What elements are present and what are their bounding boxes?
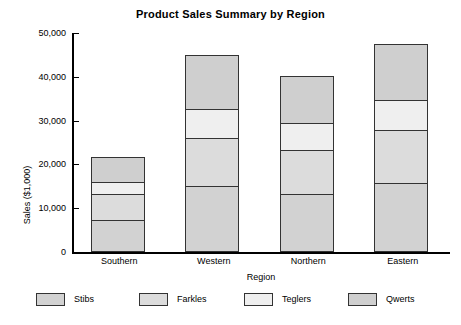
legend-swatch-farkles xyxy=(139,293,168,306)
y-tick-label: 50,000 xyxy=(0,28,66,38)
bar-segment[interactable] xyxy=(185,138,239,187)
x-tick-label-southern: Southern xyxy=(64,256,174,266)
legend-label-teglers: Teglers xyxy=(282,294,311,304)
x-axis-title: Region xyxy=(72,272,450,282)
y-axis-title-holder: Sales ($1,000) xyxy=(14,80,28,170)
bar-segment[interactable] xyxy=(91,194,145,221)
bar-segment[interactable] xyxy=(280,76,334,124)
bar-segment[interactable] xyxy=(91,182,145,196)
bar-segment[interactable] xyxy=(280,150,334,196)
legend-label-farkles: Farkles xyxy=(177,294,207,304)
legend-label-qwerts: Qwerts xyxy=(386,294,415,304)
bar-segment[interactable] xyxy=(280,122,334,151)
legend-swatch-stibs xyxy=(36,293,65,306)
legend-swatch-qwerts xyxy=(348,293,377,306)
bars-layer xyxy=(72,33,450,252)
bar-segment[interactable] xyxy=(185,55,239,110)
bar-segment[interactable] xyxy=(374,130,428,184)
bar-stack-eastern[interactable] xyxy=(376,33,427,252)
legend-item-teglers[interactable]: Teglers xyxy=(244,291,311,307)
legend-item-stibs[interactable]: Stibs xyxy=(36,291,94,307)
y-tick-label: 10,000 xyxy=(0,203,66,213)
bar-stack-southern[interactable] xyxy=(92,33,143,252)
x-tick-label-eastern: Eastern xyxy=(348,256,458,266)
legend-item-qwerts[interactable]: Qwerts xyxy=(348,291,415,307)
bar-stack-western[interactable] xyxy=(187,33,238,252)
x-tick-label-northern: Northern xyxy=(253,256,363,266)
bar-segment[interactable] xyxy=(374,44,428,101)
bar-segment[interactable] xyxy=(374,99,428,131)
bar-segment[interactable] xyxy=(185,108,239,139)
legend-label-stibs: Stibs xyxy=(74,294,94,304)
bar-segment[interactable] xyxy=(280,194,334,252)
bar-stack-northern[interactable] xyxy=(281,33,332,252)
chart-title: Product Sales Summary by Region xyxy=(0,8,461,20)
y-tick-label: 0 xyxy=(0,247,66,257)
y-tick-label: 30,000 xyxy=(0,116,66,126)
y-axis-title: Sales ($1,000) xyxy=(22,130,32,260)
y-tick-mark xyxy=(73,252,79,253)
chart-container: Product Sales Summary by Region 010,0002… xyxy=(0,0,461,325)
legend-swatch-teglers xyxy=(244,293,273,306)
bar-segment[interactable] xyxy=(91,157,145,184)
y-tick-label: 20,000 xyxy=(0,159,66,169)
x-axis-line xyxy=(72,252,450,254)
bar-segment[interactable] xyxy=(91,220,145,252)
bar-segment[interactable] xyxy=(185,186,239,252)
chart-legend: StibsFarklesTeglersQwerts xyxy=(0,291,461,311)
y-tick-label: 40,000 xyxy=(0,72,66,82)
legend-item-farkles[interactable]: Farkles xyxy=(139,291,207,307)
x-tick-label-western: Western xyxy=(159,256,269,266)
bar-segment[interactable] xyxy=(374,183,428,252)
